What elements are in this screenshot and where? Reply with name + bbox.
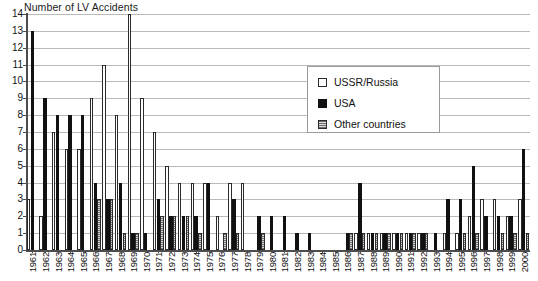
- y-axis-tick-label: 12: [1, 43, 23, 53]
- legend-swatch-other-icon: [318, 120, 327, 129]
- x-axis-tick-mark: [423, 250, 424, 253]
- bar-other-1995: [463, 233, 466, 250]
- legend-item-usa: USA: [318, 96, 356, 110]
- bar-other-1976: [223, 233, 226, 250]
- y-axis-tick-label: 14: [1, 9, 23, 19]
- x-axis-tick-mark: [322, 250, 323, 253]
- bar-usa-1963: [56, 115, 59, 250]
- bar-other-1979: [261, 233, 264, 250]
- bar-ussr-1978: [241, 183, 244, 250]
- bar-other-1991: [412, 233, 415, 250]
- x-axis-tick-label: 1969: [128, 252, 139, 272]
- x-axis-tick-mark: [410, 250, 411, 253]
- bar-usa-1982: [295, 233, 298, 250]
- y-axis-tick-label: 3: [1, 194, 23, 204]
- x-axis-tick-label: 1990: [393, 252, 404, 272]
- x-axis-tick-label: 1999: [506, 252, 517, 272]
- year-bar-group: [265, 14, 278, 250]
- x-axis-tick-label: 1980: [267, 252, 278, 272]
- x-axis-tick-mark: [310, 250, 311, 253]
- y-axis-labels: 01234567891011121314: [0, 14, 23, 250]
- x-axis-tick-label: 1986: [342, 252, 353, 272]
- x-axis-tick-label: 1962: [40, 252, 51, 272]
- year-bar-group: [291, 14, 304, 250]
- year-bar-group: [89, 14, 102, 250]
- year-bar-group: [139, 14, 152, 250]
- year-bar-group: [505, 14, 518, 250]
- bar-usa-1961: [31, 31, 34, 250]
- x-axis-tick-mark: [45, 250, 46, 253]
- x-axis-tick-mark: [486, 250, 487, 253]
- year-bar-group: [64, 14, 77, 250]
- x-axis-tick-label: 1997: [481, 252, 492, 272]
- bar-other-1974: [198, 233, 201, 250]
- x-axis-tick-label: 1977: [229, 252, 240, 272]
- year-bar-group: [480, 14, 493, 250]
- x-axis-tick-mark: [108, 250, 109, 253]
- legend-label: Other countries: [334, 118, 406, 130]
- y-axis-tick-label: 1: [1, 228, 23, 238]
- x-axis-tick-label: 1971: [153, 252, 164, 272]
- x-axis-tick-mark: [184, 250, 185, 253]
- chart-container: Number of LV Accidents 01234567891011121…: [0, 0, 538, 281]
- x-axis-tick-mark: [70, 250, 71, 253]
- x-axis-tick-mark: [234, 250, 235, 253]
- x-axis-tick-label: 1968: [116, 252, 127, 272]
- year-bar-group: [202, 14, 215, 250]
- x-axis-tick-label: 1989: [380, 252, 391, 272]
- bar-usa-1994: [446, 199, 449, 250]
- bar-other-1986: [349, 233, 352, 250]
- bar-other-2000: [526, 233, 529, 250]
- x-axis-tick-label: 1963: [53, 252, 64, 272]
- y-axis-tick-label: 10: [1, 76, 23, 86]
- x-axis-tick-label: 1985: [330, 252, 341, 272]
- x-axis-tick-label: 1994: [443, 252, 454, 272]
- year-bar-group: [253, 14, 266, 250]
- x-axis-tick-label: 1967: [103, 252, 114, 272]
- bar-usa-1981: [283, 216, 286, 250]
- bar-other-1967: [110, 199, 113, 250]
- bar-other-1966: [97, 199, 100, 250]
- x-axis-tick-mark: [259, 250, 260, 253]
- x-axis-tick-mark: [58, 250, 59, 253]
- x-axis-tick-mark: [196, 250, 197, 253]
- chart-legend: USSR/RussiaUSAOther countries: [307, 66, 440, 133]
- bar-other-1987: [362, 233, 365, 250]
- bar-usa-1965: [81, 115, 84, 250]
- y-axis-tick-label: 5: [1, 161, 23, 171]
- y-axis-tick-label: 8: [1, 110, 23, 120]
- bar-usa-1980: [270, 216, 273, 250]
- x-axis-tick-label: 1976: [216, 252, 227, 272]
- bar-other-1996: [475, 233, 478, 250]
- year-bar-group: [39, 14, 52, 250]
- x-axis-tick-mark: [32, 250, 33, 253]
- x-axis-tick-label: 1991: [405, 252, 416, 272]
- x-axis-tick-label: 1984: [317, 252, 328, 272]
- bar-usa-1975: [207, 183, 210, 250]
- bar-usa-1964: [68, 115, 71, 250]
- bar-other-1973: [186, 216, 189, 250]
- year-bar-group: [228, 14, 241, 250]
- year-bar-group: [127, 14, 140, 250]
- legend-item-ussr: USSR/Russia: [318, 75, 398, 89]
- bar-other-1999: [513, 233, 516, 250]
- x-axis-tick-label: 1973: [179, 252, 190, 272]
- x-axis-tick-mark: [360, 250, 361, 253]
- x-axis-tick-label: 1961: [27, 252, 38, 272]
- year-bar-group: [76, 14, 89, 250]
- x-axis-tick-mark: [511, 250, 512, 253]
- x-axis-tick-label: 1972: [166, 252, 177, 272]
- year-bar-group: [215, 14, 228, 250]
- bar-other-1977: [236, 233, 239, 250]
- year-bar-group: [114, 14, 127, 250]
- y-axis-tick-label: 6: [1, 144, 23, 154]
- x-axis-tick-mark: [373, 250, 374, 253]
- bar-usa-1993: [434, 233, 437, 250]
- bars-layer: [26, 14, 530, 250]
- x-axis-tick-mark: [524, 250, 525, 253]
- year-bar-group: [102, 14, 115, 250]
- year-bar-group: [467, 14, 480, 250]
- legend-item-other: Other countries: [318, 117, 406, 131]
- x-axis-tick-mark: [247, 250, 248, 253]
- y-axis-tick-label: 2: [1, 211, 23, 221]
